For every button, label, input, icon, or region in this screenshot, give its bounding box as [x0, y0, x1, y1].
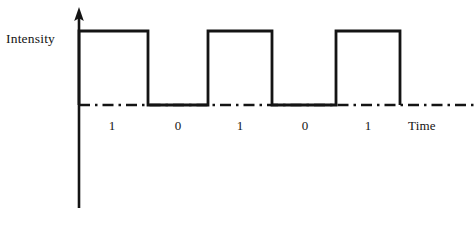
signal-trace — [79, 31, 400, 105]
signal-figure: Intensity Time 1 0 1 0 1 — [0, 0, 476, 235]
x-axis-label: Time — [408, 118, 436, 134]
bit-label-3: 1 — [232, 118, 248, 134]
bit-label-5: 1 — [360, 118, 376, 134]
bit-label-2: 0 — [170, 118, 186, 134]
y-axis-label: Intensity — [6, 31, 55, 47]
bit-label-4: 0 — [297, 118, 313, 134]
bit-label-1: 1 — [104, 118, 120, 134]
